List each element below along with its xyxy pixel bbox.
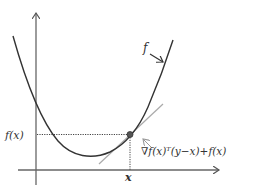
x-tick-label: x [124,171,132,184]
convexity-diagram: f ∇f(x)ᵀ(y−x)+f(x) f(x) x [0,0,259,196]
y-tick-label: f(x) [4,129,24,142]
tangent-label: ∇f(x)ᵀ(y−x)+f(x) [141,145,226,157]
curve-label-arrow [150,54,163,62]
tangent-point [127,132,133,138]
convex-curve [13,36,173,156]
curve-label: f [142,41,150,55]
